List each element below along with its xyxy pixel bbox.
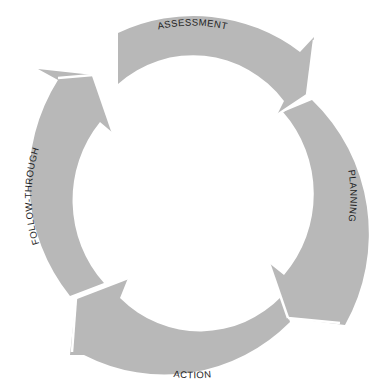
cycle-diagram: ASSESSMENT PLANNING ACTION FOLLOW-THROUG… <box>0 0 381 388</box>
segment-follow-through <box>29 69 113 296</box>
label-action: ACTION <box>173 368 212 380</box>
segment-action <box>70 278 290 375</box>
segment-assessment <box>118 16 314 115</box>
